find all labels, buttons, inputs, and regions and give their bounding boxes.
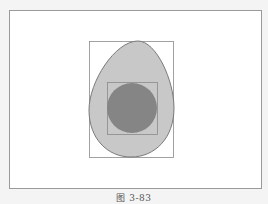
inner-circle [107, 83, 157, 133]
egg-diagram [0, 0, 268, 204]
figure-caption: 图 3-83 [0, 191, 268, 204]
